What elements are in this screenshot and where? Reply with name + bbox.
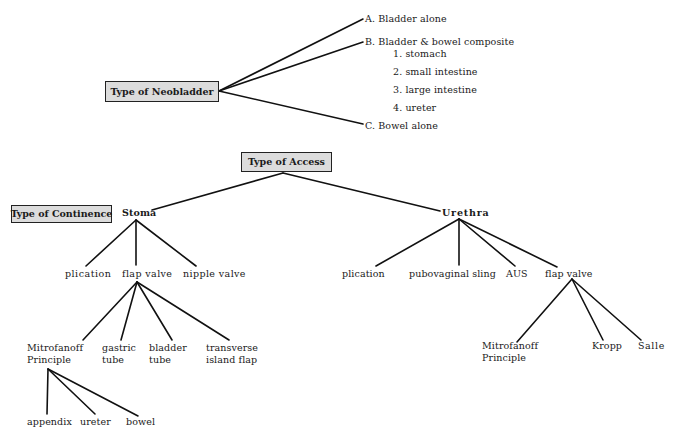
stoma-mitrofanoff-line1: Mitrofanoff	[27, 342, 83, 354]
diagram-canvas: Type of Neobladder A. Bladder alone B. B…	[0, 0, 679, 435]
urethra-pubovaginal-sling: pubovaginal sling	[409, 268, 496, 280]
transverse-island-flap-line2: island flap	[206, 354, 257, 366]
neobladder-type-label: Type of Neobladder	[110, 86, 213, 98]
option-bowel-alone: C. Bowel alone	[365, 120, 438, 132]
stoma-nipple-valve: nipple valve	[183, 268, 246, 280]
continence-type-label: Type of Continence	[11, 208, 113, 220]
urethra-aus: AUS	[506, 268, 528, 280]
neobladder-type-box: Type of Neobladder	[105, 81, 219, 102]
sub-option-ureter: 4. ureter	[393, 102, 436, 114]
stoma-node: Stoma	[122, 207, 156, 219]
urethra-plication: plication	[342, 268, 385, 280]
mitrofanoff-appendix: appendix	[27, 416, 72, 428]
option-bladder-bowel-composite: B. Bladder & bowel composite	[365, 36, 514, 48]
bladder-tube-line2: tube	[149, 354, 171, 366]
sub-option-large-intestine: 3. large intestine	[393, 84, 477, 96]
mitrofanoff-bowel: bowel	[126, 416, 155, 428]
urethra-mitrofanoff-line2: Principle	[482, 352, 526, 364]
urethra-mitrofanoff-line1: Mitrofanoff	[482, 340, 538, 352]
stoma-flap-valve: flap valve	[122, 268, 172, 280]
urethra-kropp: Kropp	[592, 340, 622, 352]
gastric-tube-line2: tube	[102, 354, 124, 366]
stoma-mitrofanoff-line2: Principle	[27, 354, 71, 366]
sub-option-stomach: 1. stomach	[393, 48, 447, 60]
transverse-island-flap-line1: transverse	[206, 342, 258, 354]
sub-option-small-intestine: 2. small intestine	[393, 66, 478, 78]
mitrofanoff-ureter: ureter	[80, 416, 111, 428]
urethra-node: Urethra	[442, 207, 489, 219]
continence-type-box: Type of Continence	[11, 205, 112, 223]
urethra-flap-valve: flap valve	[545, 268, 592, 280]
gastric-tube-line1: gastric	[102, 342, 136, 354]
option-bladder-alone: A. Bladder alone	[365, 13, 447, 25]
bladder-tube-line1: bladder	[149, 342, 187, 354]
access-type-label: Type of Access	[248, 156, 325, 168]
access-type-box: Type of Access	[241, 152, 332, 172]
urethra-salle: Salle	[638, 340, 665, 352]
stoma-plication: plication	[65, 268, 111, 280]
